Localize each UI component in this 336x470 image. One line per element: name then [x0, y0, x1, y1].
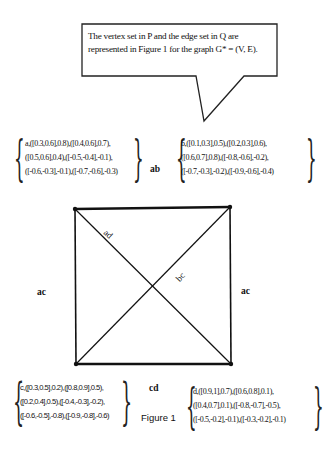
vertex-b-row: b,([0.1,0.3],0.5),([0.2,0.3],0.6), [181, 137, 274, 151]
vertex-c-row: c,([0.3,0.5],0.2),([0.8,0.9],0.5), [20, 381, 109, 395]
vertex-a-row: a,([0.3,0.6],0.8),([0.4,0.6],0.7), [25, 137, 118, 151]
vertex-a-row: ([-0.6,-0.3],-0.1),([-0.7,-0.6],-0.3) [25, 165, 118, 179]
callout-text: The vertex set in P and the edge set in … [88, 30, 274, 56]
edge-label-ac-right: ac [241, 286, 250, 296]
right-brace: } [313, 378, 324, 434]
vertex-b-dot [228, 205, 232, 209]
vertex-c-dot [74, 362, 78, 366]
vertex-a-row: ([0.5,0.6],0.4),([-0.5,-0.4],-0.1), [25, 151, 118, 165]
right-brace: } [306, 130, 317, 186]
vertex-d-row: d,([0.9,1],0.7),([0.6,0.8],0.1), [193, 385, 286, 399]
vertex-b-row: ([0.6,0.7],0.8),([-0.8,-0.6],-0.2), [181, 151, 274, 165]
right-brace: } [121, 373, 132, 431]
left-brace: { [14, 130, 25, 186]
vertex-d-dot [229, 362, 233, 366]
edge-right [230, 207, 231, 364]
vertex-set-a: a,([0.3,0.6],0.8),([0.4,0.6],0.7), ([0.5… [25, 137, 118, 179]
edge-label-ac-left: ac [37, 287, 46, 297]
vertex-d-row: ([0.4,0.7],0.1),([-0.8,-0.7],-0.5), [193, 399, 286, 413]
right-brace: } [133, 130, 144, 186]
edge-label-ab: ab [150, 164, 160, 174]
vertex-d-row: ([-0.5,-0.2],-0.1),([-0.3,-0.2],-0.1) [193, 413, 286, 427]
vertex-a-dot [73, 207, 77, 211]
vertex-c-row: ([-0.6,-0.5],-0.8),([-0.9,-0.8],-0.6) [20, 409, 109, 423]
vertex-set-b: b,([0.1,0.3],0.5),([0.2,0.3],0.6), ([0.6… [181, 137, 274, 179]
vertex-c-row: ([0.2,0.4],0.5),([-0.4,-0.3],-0.2), [20, 395, 109, 409]
edge-top [75, 207, 230, 209]
vertex-b-row: ([-0.7,-0.3],-0.2),([-0.9,-0.6],-0.4) [181, 165, 274, 179]
vertex-set-d: d,([0.9,1],0.7),([0.6,0.8],0.1), ([0.4,0… [193, 385, 286, 427]
edge-left [75, 209, 76, 364]
vertex-set-c: c,([0.3,0.5],0.2),([0.8,0.9],0.5), ([0.2… [20, 381, 109, 423]
figure-caption: Figure 1 [141, 412, 176, 423]
edge-label-cd: cd [149, 383, 159, 393]
